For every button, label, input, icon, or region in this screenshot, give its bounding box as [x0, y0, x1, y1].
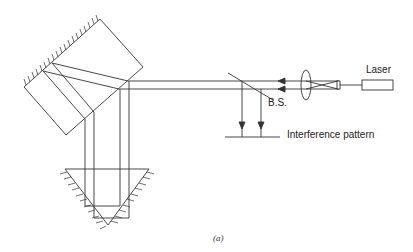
horizontal-beams [119, 81, 338, 89]
beam-splitter-label: B.S. [268, 97, 287, 108]
laser-label: Laser [366, 64, 391, 75]
interference-pattern-label: Interference pattern [287, 129, 374, 140]
mirror-hatching [24, 15, 98, 85]
vertical-beams [85, 81, 129, 218]
tilted-mirror-block [24, 15, 143, 135]
lens [301, 70, 311, 100]
diagram-graphic [0, 0, 413, 252]
beam-splitter [228, 73, 273, 100]
laser [362, 80, 393, 90]
interferometer-diagram: Laser B.S. Interference pattern (a) [0, 0, 413, 252]
corner-cube-reflector [60, 169, 154, 229]
figure-caption: (a) [213, 233, 224, 243]
